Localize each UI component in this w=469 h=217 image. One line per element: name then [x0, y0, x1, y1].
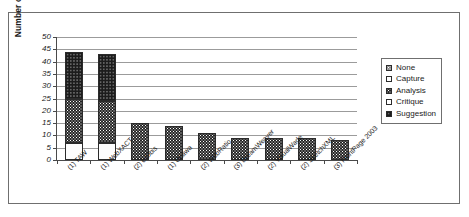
- bar-column[interactable]: [65, 37, 83, 160]
- y-tick-mark: [53, 74, 57, 75]
- chart-frame: Number of checkpoints 051015202530354045…: [8, 12, 460, 204]
- chart-legend: NoneCaptureAnalysisCritiqueSuggestion: [381, 58, 442, 124]
- y-tick-mark: [53, 86, 57, 87]
- legend-swatch: [386, 76, 392, 82]
- y-tick-label: 5: [47, 144, 51, 152]
- x-tick-mark: [324, 160, 325, 164]
- bar-column[interactable]: [331, 37, 349, 160]
- y-tick-label: 20: [42, 107, 51, 115]
- bar-segment[interactable]: [65, 52, 83, 99]
- legend-label: Suggestion: [396, 110, 436, 118]
- x-tick-mark: [224, 160, 225, 164]
- bar-column[interactable]: [231, 37, 249, 160]
- y-tick-label: 15: [42, 119, 51, 127]
- y-tick-label: 35: [42, 70, 51, 78]
- legend-label: Critique: [396, 98, 424, 106]
- x-tick-mark: [257, 160, 258, 164]
- x-tick-mark: [357, 160, 358, 164]
- legend-item[interactable]: Suggestion: [386, 108, 436, 120]
- legend-item[interactable]: Critique: [386, 97, 436, 109]
- bar-column[interactable]: [298, 37, 316, 160]
- y-tick-mark: [53, 37, 57, 38]
- y-tick-label: 25: [42, 95, 51, 103]
- bar-column[interactable]: [265, 37, 283, 160]
- y-tick-label: 45: [42, 45, 51, 53]
- bar-column[interactable]: [98, 37, 116, 160]
- plot-area: 05101520253035404550 (1) TAW(1) WebXACT(…: [56, 37, 357, 161]
- y-axis-title: Number of checkpoints: [11, 0, 25, 55]
- x-tick-mark: [290, 160, 291, 164]
- bar-chart-figure: Number of checkpoints 051015202530354045…: [0, 0, 469, 217]
- bar-column[interactable]: [165, 37, 183, 160]
- legend-swatch: [386, 111, 392, 117]
- legend-label: None: [396, 64, 415, 72]
- y-tick-label: 50: [42, 33, 51, 41]
- y-tick-label: 10: [42, 131, 51, 139]
- x-tick-mark: [124, 160, 125, 164]
- x-tick-mark: [190, 160, 191, 164]
- y-tick-mark: [53, 111, 57, 112]
- bar-segment[interactable]: [98, 54, 116, 101]
- legend-swatch: [386, 65, 392, 71]
- y-tick-mark: [53, 123, 57, 124]
- y-tick-mark: [53, 62, 57, 63]
- legend-swatch: [386, 88, 392, 94]
- x-tick-mark: [57, 160, 58, 164]
- x-tick-mark: [157, 160, 158, 164]
- bar-segment[interactable]: [65, 99, 83, 143]
- legend-item[interactable]: None: [386, 62, 436, 74]
- legend-item[interactable]: Capture: [386, 74, 436, 86]
- y-tick-mark: [53, 135, 57, 136]
- y-tick-mark: [53, 99, 57, 100]
- bar-column[interactable]: [198, 37, 216, 160]
- y-tick-mark: [53, 148, 57, 149]
- bar-segment[interactable]: [98, 101, 116, 143]
- y-tick-label: 40: [42, 58, 51, 66]
- bar-column[interactable]: [131, 37, 149, 160]
- legend-label: Capture: [396, 75, 424, 83]
- x-tick-mark: [90, 160, 91, 164]
- y-tick-label: 30: [42, 82, 51, 90]
- y-tick-mark: [53, 49, 57, 50]
- legend-item[interactable]: Analysis: [386, 85, 436, 97]
- y-tick-label: 0: [47, 156, 51, 164]
- legend-swatch: [386, 99, 392, 105]
- legend-label: Analysis: [396, 87, 426, 95]
